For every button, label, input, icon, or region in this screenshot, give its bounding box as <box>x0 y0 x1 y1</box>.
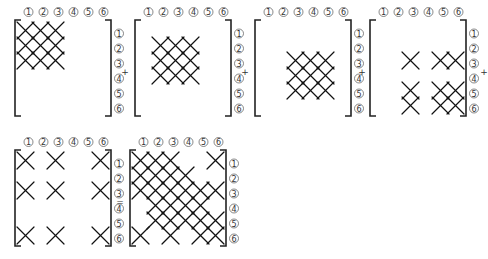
svg-text:2: 2 <box>231 175 236 184</box>
row-label: 3 <box>230 189 239 199</box>
cross-mark <box>192 182 209 199</box>
cross-mark <box>147 167 164 184</box>
svg-text:1: 1 <box>146 8 151 17</box>
svg-text:1: 1 <box>356 30 361 39</box>
cross-mark <box>317 82 334 99</box>
svg-text:5: 5 <box>116 220 121 229</box>
column-label: 1 <box>24 8 33 18</box>
cross-mark <box>177 197 194 214</box>
cross-mark <box>47 227 64 244</box>
svg-text:2: 2 <box>156 138 161 147</box>
column-label: 4 <box>424 8 433 18</box>
cross-mark <box>132 167 149 184</box>
svg-text:5: 5 <box>231 220 236 229</box>
row-label: 1 <box>470 29 479 39</box>
column-label: 5 <box>439 8 448 18</box>
svg-text:6: 6 <box>116 235 121 244</box>
cross-mark <box>207 182 224 199</box>
column-label: 3 <box>169 138 178 148</box>
svg-text:1: 1 <box>116 160 121 169</box>
cross-mark <box>317 52 334 69</box>
row-label: 1 <box>115 29 124 39</box>
cross-mark <box>17 227 34 244</box>
column-label: 5 <box>204 8 213 18</box>
svg-text:1: 1 <box>141 138 146 147</box>
column-label: 4 <box>189 8 198 18</box>
cross-mark <box>302 52 319 69</box>
cross-mark <box>192 212 209 229</box>
svg-text:5: 5 <box>201 138 206 147</box>
cross-mark <box>192 227 209 244</box>
svg-text:3: 3 <box>171 138 176 147</box>
svg-text:4: 4 <box>191 8 196 17</box>
row-label: 6 <box>230 234 239 244</box>
cross-mark <box>182 52 199 69</box>
row-label: 1 <box>230 159 239 169</box>
right-bracket <box>345 20 351 116</box>
svg-text:1: 1 <box>236 30 241 39</box>
cross-mark <box>47 182 64 199</box>
cross-mark <box>162 167 179 184</box>
cross-mark <box>167 67 184 84</box>
row-label: 6 <box>115 234 124 244</box>
matrix-4: 123456123456 <box>370 8 479 117</box>
column-label: 4 <box>69 8 78 18</box>
svg-text:2: 2 <box>116 175 121 184</box>
svg-text:6: 6 <box>456 8 461 17</box>
cross-mark <box>182 37 199 54</box>
column-label: 2 <box>39 138 48 148</box>
cross-mark <box>17 152 34 169</box>
right-bracket <box>225 20 231 116</box>
svg-text:1: 1 <box>231 160 236 169</box>
svg-text:2: 2 <box>356 45 361 54</box>
row-label: 2 <box>470 44 479 54</box>
svg-text:6: 6 <box>471 105 476 114</box>
cross-mark <box>287 52 304 69</box>
svg-text:4: 4 <box>311 8 316 17</box>
row-label: 5 <box>235 89 244 99</box>
cross-mark <box>17 22 34 39</box>
svg-text:2: 2 <box>116 45 121 54</box>
cross-mark <box>287 67 304 84</box>
row-label: 5 <box>230 219 239 229</box>
svg-text:2: 2 <box>281 8 286 17</box>
column-label: 6 <box>219 8 228 18</box>
cross-mark <box>447 82 464 99</box>
svg-text:4: 4 <box>231 205 236 214</box>
row-label: 1 <box>355 29 364 39</box>
column-label: 6 <box>339 8 348 18</box>
svg-text:6: 6 <box>216 138 221 147</box>
svg-text:3: 3 <box>471 60 476 69</box>
svg-text:6: 6 <box>101 8 106 17</box>
cross-mark <box>147 212 164 229</box>
plus-sign: + <box>358 67 366 77</box>
column-label: 1 <box>264 8 273 18</box>
column-label: 4 <box>184 138 193 148</box>
svg-text:5: 5 <box>236 90 241 99</box>
svg-text:5: 5 <box>206 8 211 17</box>
column-label: 2 <box>39 8 48 18</box>
cross-mark <box>177 212 194 229</box>
svg-text:1: 1 <box>26 8 31 17</box>
svg-text:6: 6 <box>116 105 121 114</box>
column-label: 3 <box>54 138 63 148</box>
cross-mark <box>132 227 149 244</box>
column-label: 3 <box>409 8 418 18</box>
svg-text:1: 1 <box>266 8 271 17</box>
svg-text:3: 3 <box>56 8 61 17</box>
cross-mark <box>92 152 109 169</box>
svg-text:6: 6 <box>231 235 236 244</box>
cross-mark <box>402 82 419 99</box>
column-label: 2 <box>154 138 163 148</box>
cross-mark <box>47 52 64 69</box>
svg-text:4: 4 <box>471 75 476 84</box>
cross-mark <box>147 182 164 199</box>
row-label: 5 <box>470 89 479 99</box>
row-label: 2 <box>230 174 239 184</box>
svg-text:4: 4 <box>426 8 431 17</box>
row-label: 2 <box>235 44 244 54</box>
matrix-3: 123456123456 <box>255 8 364 117</box>
svg-text:3: 3 <box>411 8 416 17</box>
column-label: 1 <box>24 138 33 148</box>
cross-mark <box>132 152 149 169</box>
